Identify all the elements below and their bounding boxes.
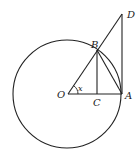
angle-label: x: [78, 84, 83, 93]
label-b: B: [90, 39, 98, 50]
label-d: D: [126, 9, 135, 20]
label-c: C: [93, 97, 101, 108]
segment-od: [68, 14, 122, 94]
geometry-diagram: O A B C D x: [0, 0, 140, 154]
segment-ba: [97, 50, 122, 94]
label-o: O: [57, 89, 65, 100]
label-a: A: [124, 90, 132, 101]
